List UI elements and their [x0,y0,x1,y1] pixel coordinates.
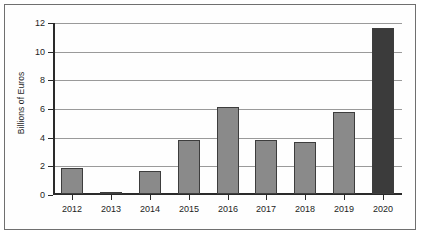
y-tick-label: 10 [35,47,45,57]
y-tick-label: 8 [40,75,45,85]
x-tick-label-2017: 2017 [256,204,276,214]
gridline [53,52,402,53]
bar-2014 [139,171,161,194]
x-tick-mark [228,195,229,200]
x-tick-label-2013: 2013 [101,204,121,214]
bar-2012 [61,168,83,194]
y-tick-mark [48,195,53,196]
x-tick-label-2015: 2015 [179,204,199,214]
bar-2013 [100,192,122,194]
gridline [53,23,402,24]
bar-2017 [255,140,277,194]
y-tick-label: 2 [40,161,45,171]
x-tick-mark [72,195,73,200]
x-tick-mark [344,195,345,200]
bar-2015 [178,140,200,194]
x-tick-mark [266,195,267,200]
x-tick-mark [383,195,384,200]
x-tick-label-2016: 2016 [218,204,238,214]
y-tick-label: 0 [40,190,45,200]
y-axis-line [53,23,55,195]
x-tick-mark [111,195,112,200]
y-tick-label: 4 [40,133,45,143]
y-tick-label: 12 [35,18,45,28]
y-axis-title-label: Billions of Euros [16,72,26,135]
plot-area: 024681012 201220132014201520162017201820… [53,23,402,195]
chart-figure-frame: Billions of Euros 024681012 201220132014… [4,4,416,230]
x-tick-label-2018: 2018 [295,204,315,214]
bar-2020 [372,28,394,194]
x-tick-mark [189,195,190,200]
x-tick-mark [150,195,151,200]
gridline [53,80,402,81]
y-tick-label: 6 [40,104,45,114]
bar-2018 [294,142,316,194]
x-tick-mark [305,195,306,200]
bar-2016 [217,107,239,194]
x-tick-label-2012: 2012 [62,204,82,214]
x-tick-label-2014: 2014 [140,204,160,214]
bar-2019 [333,112,355,194]
x-tick-label-2019: 2019 [334,204,354,214]
x-tick-label-2020: 2020 [373,204,393,214]
y-axis-title: Billions of Euros [13,23,29,183]
